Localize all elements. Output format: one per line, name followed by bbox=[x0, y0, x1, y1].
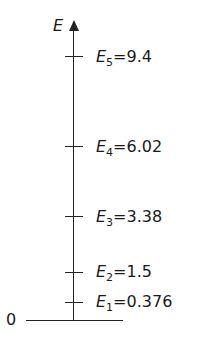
energy-axis-label: E bbox=[53, 16, 63, 35]
tick-e4 bbox=[65, 146, 83, 147]
zero-baseline bbox=[26, 320, 123, 321]
tick-e3 bbox=[65, 216, 83, 217]
tick-e1 bbox=[65, 302, 83, 303]
origin-label: 0 bbox=[6, 310, 16, 329]
tick-e2 bbox=[65, 272, 83, 273]
level-label-e4: E4=6.02 bbox=[96, 138, 162, 156]
energy-axis bbox=[73, 26, 74, 321]
level-label-e1: E1=0.376 bbox=[96, 293, 172, 311]
tick-e5 bbox=[65, 56, 83, 57]
level-label-e2: E2=1.5 bbox=[96, 263, 152, 281]
level-label-e5: E5=9.4 bbox=[96, 48, 152, 66]
level-label-e3: E3=3.38 bbox=[96, 208, 162, 226]
